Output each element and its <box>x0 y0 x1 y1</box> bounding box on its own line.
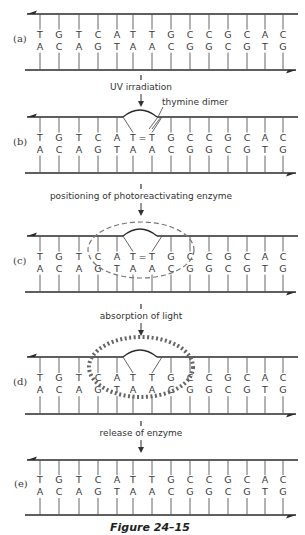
base-top: T <box>148 132 155 143</box>
base-bottom: C <box>168 41 175 52</box>
base-top: C <box>280 372 287 383</box>
base-bottom: C <box>225 144 232 155</box>
base-bottom: C <box>225 41 232 52</box>
base-top: G <box>224 251 231 262</box>
base-bottom: G <box>279 384 286 395</box>
base-bottom: C <box>225 263 232 274</box>
base-bottom: A <box>76 486 83 497</box>
base-top: T <box>148 372 155 383</box>
base-bottom: G <box>243 144 250 155</box>
base-top: C <box>95 474 102 485</box>
base-bottom: G <box>205 41 212 52</box>
base-bottom: G <box>279 263 286 274</box>
base-top: C <box>280 132 287 143</box>
base-top: G <box>224 29 231 40</box>
base-top: C <box>206 132 213 143</box>
base-bottom: G <box>205 263 212 274</box>
base-top: C <box>244 251 251 262</box>
base-top: A <box>262 372 269 383</box>
step-label: positioning of photoreactivating enzyme <box>50 191 233 201</box>
kinked-rung <box>152 357 162 373</box>
base-bottom: C <box>225 486 232 497</box>
base-bottom: T <box>113 486 120 497</box>
base-top: A <box>262 251 269 262</box>
panel-label: (e) <box>14 478 28 489</box>
base-top: T <box>129 29 136 40</box>
base-top: C <box>95 372 102 383</box>
base-top: C <box>244 132 251 143</box>
base-top: C <box>244 29 251 40</box>
panel-label: (d) <box>13 376 27 387</box>
base-bottom: A <box>149 144 156 155</box>
panel-label: (c) <box>13 255 27 266</box>
base-top: C <box>187 132 194 143</box>
base-top: C <box>280 29 287 40</box>
base-bottom: C <box>56 384 63 395</box>
base-bottom: C <box>168 486 175 497</box>
base-top: C <box>244 372 251 383</box>
process-step: absorption of light <box>100 304 183 336</box>
panel-label: (a) <box>13 33 27 44</box>
panel-c: (c)TAGCTACGATTATAGCCGCGGCCGATCG= <box>13 222 298 296</box>
photoreactivation-diagram: (a)TAGCTACGATTATAGCCGCGGCCGATCG(b)TAGCTA… <box>0 0 305 535</box>
panel-a: (a)TAGCTACGATTATAGCCGCGGCCGATCG <box>13 11 298 74</box>
base-top: A <box>114 132 121 143</box>
base-top: G <box>55 372 62 383</box>
base-bottom: A <box>37 41 44 52</box>
base-top: T <box>75 251 82 262</box>
base-bottom: T <box>261 384 268 395</box>
base-top: G <box>55 251 62 262</box>
base-top: C <box>206 251 213 262</box>
base-bottom: A <box>76 41 83 52</box>
base-top: C <box>206 372 213 383</box>
base-top: G <box>55 29 62 40</box>
base-top: C <box>206 29 213 40</box>
base-top: A <box>262 474 269 485</box>
base-bottom: A <box>130 486 137 497</box>
base-bottom: A <box>130 41 137 52</box>
base-bottom: T <box>261 263 268 274</box>
base-bottom: C <box>168 144 175 155</box>
base-bottom: T <box>261 144 268 155</box>
kinked-rung <box>123 117 133 133</box>
activated-enzyme <box>89 337 193 397</box>
base-bottom: G <box>186 41 193 52</box>
figure-caption: Figure 24–15 <box>110 521 190 534</box>
base-bottom: C <box>168 263 175 274</box>
base-bottom: A <box>76 384 83 395</box>
base-bottom: T <box>113 263 120 274</box>
base-top: T <box>129 372 136 383</box>
base-bottom: G <box>94 144 101 155</box>
base-bottom: A <box>149 384 156 395</box>
kinked-rung <box>123 236 133 252</box>
base-bottom: C <box>56 41 63 52</box>
base-bottom: G <box>279 486 286 497</box>
base-top: T <box>75 29 82 40</box>
base-top: A <box>114 29 121 40</box>
base-top: G <box>224 372 231 383</box>
panel-e: (e)TAGCTACGATTATAGCCGCGGCCGATCG <box>14 457 298 519</box>
base-bottom: G <box>205 384 212 395</box>
base-top: T <box>129 474 136 485</box>
base-top: C <box>187 29 194 40</box>
base-bottom: G <box>205 486 212 497</box>
base-top: T <box>36 474 43 485</box>
base-top: C <box>280 474 287 485</box>
base-top: C <box>95 132 102 143</box>
base-top: T <box>36 251 43 262</box>
base-bottom: G <box>205 144 212 155</box>
base-bottom: A <box>37 263 44 274</box>
base-top: C <box>244 474 251 485</box>
base-top: C <box>95 251 102 262</box>
process-step: release of enzyme <box>100 421 183 453</box>
base-bottom: G <box>243 486 250 497</box>
base-bottom: G <box>243 41 250 52</box>
strand-bulge <box>123 110 157 117</box>
base-top: T <box>36 29 43 40</box>
base-top: G <box>55 474 62 485</box>
base-top: C <box>206 474 213 485</box>
base-top: C <box>187 474 194 485</box>
base-bottom: A <box>149 486 156 497</box>
base-top: T <box>148 251 155 262</box>
base-bottom: G <box>243 384 250 395</box>
